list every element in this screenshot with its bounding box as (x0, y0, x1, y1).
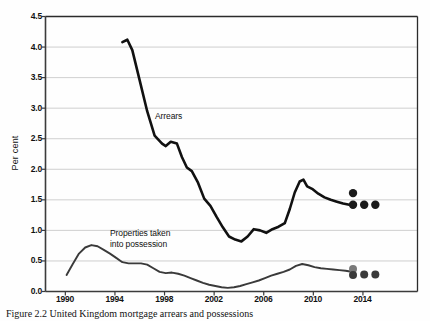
data-point-possession-forecast (371, 270, 379, 278)
data-point-possession-forecast (360, 270, 368, 278)
plot-area (0, 0, 430, 321)
data-point-possession-forecast (349, 271, 357, 279)
series-line-arrears (122, 40, 353, 242)
data-point-arrears-forecast (371, 201, 379, 209)
data-point-arrears-forecast (349, 189, 357, 197)
chart-figure: Per cent 4.5 4.0 3.5 3.0 2.5 2.0 1.5 1.0… (0, 0, 430, 321)
figure-caption: Figure 2.2 United Kingdom mortgage arrea… (6, 308, 426, 320)
data-point-arrears-forecast (360, 201, 368, 209)
data-point-arrears-forecast (349, 201, 357, 209)
possession-series-label-line2: into possession (110, 239, 167, 250)
arrears-series-label: Arrears (155, 111, 182, 122)
series-line-properties-taken-into-possession (67, 245, 353, 288)
possession-series-label-line1: Properties taken (110, 228, 170, 239)
